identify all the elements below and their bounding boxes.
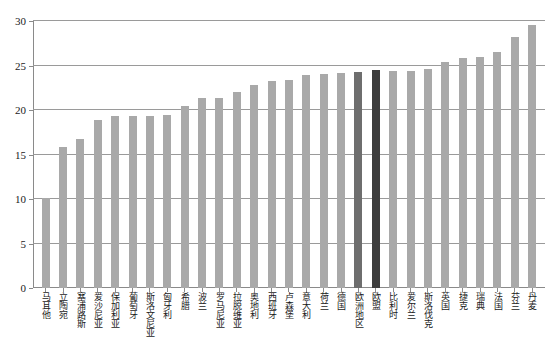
bar-法国[interactable] [493, 52, 501, 288]
x-label-slot: 塞浦路斯 [72, 292, 89, 335]
bar-slot [524, 21, 541, 288]
x-axis-label-西班牙: 西班牙 [267, 292, 276, 319]
x-axis-label-捷克: 捷克 [458, 292, 467, 310]
y-tick-label-30: 30 [15, 16, 26, 27]
x-label-slot: 爱尔兰 [402, 292, 419, 335]
bar-马耳他[interactable] [42, 198, 50, 288]
x-label-slot: 比利时 [385, 292, 402, 335]
x-axis-label-拉脱维亚: 拉脱维亚 [232, 292, 241, 328]
bar-斯洛伐克[interactable] [424, 69, 432, 288]
x-axis-label-丹麦: 丹麦 [528, 292, 537, 310]
x-label-slot: 拉脱维亚 [228, 292, 245, 335]
bar-德国[interactable] [337, 73, 345, 288]
x-label-slot: 欧盟 [367, 292, 384, 335]
x-label-slot: 保加利亚 [107, 292, 124, 335]
x-label-slot: 荷兰 [315, 292, 332, 335]
bars-layer [33, 21, 545, 288]
y-tick-label-0: 0 [21, 283, 27, 294]
bar-卢森堡[interactable] [285, 80, 293, 288]
bar-荷兰[interactable] [320, 74, 328, 288]
x-axis-label-斯洛文尼亚: 斯洛文尼亚 [145, 292, 154, 337]
x-label-slot: 波兰 [193, 292, 210, 335]
bar-slot [402, 21, 419, 288]
bar-捷克[interactable] [459, 58, 467, 289]
bar-拉脱维亚[interactable] [233, 92, 241, 288]
bar-葡萄牙[interactable] [129, 116, 137, 288]
x-axis-label-葡萄牙: 葡萄牙 [128, 292, 137, 319]
bar-西班牙[interactable] [268, 81, 276, 288]
x-label-slot: 法国 [489, 292, 506, 335]
x-axis-label-意大利: 意大利 [302, 292, 311, 319]
x-axis-label-马耳他: 马耳他 [41, 292, 50, 319]
bar-slot [37, 21, 54, 288]
x-label-slot: 芬兰 [506, 292, 523, 335]
x-label-slot: 匈牙利 [159, 292, 176, 335]
bar-奥地利[interactable] [250, 85, 258, 288]
x-label-slot: 立陶宛 [54, 292, 71, 335]
x-label-slot: 马耳他 [37, 292, 54, 335]
bar-丹麦[interactable] [528, 25, 536, 288]
x-axis-label-匈牙利: 匈牙利 [163, 292, 172, 319]
bar-slot [437, 21, 454, 288]
x-axis-label-德国: 德国 [336, 292, 345, 310]
bar-欧洲地区[interactable] [354, 72, 362, 288]
bar-塞浦路斯[interactable] [76, 139, 84, 288]
x-axis-label-奥地利: 奥地利 [250, 292, 259, 319]
bar-罗马尼亚[interactable] [215, 98, 223, 288]
x-axis-label-英国: 英国 [441, 292, 450, 310]
x-axis-label-立陶宛: 立陶宛 [58, 292, 67, 319]
x-axis-label-瑞典: 瑞典 [475, 292, 484, 310]
bar-slot [471, 21, 488, 288]
bar-希腊[interactable] [181, 106, 189, 288]
x-label-slot: 瑞典 [471, 292, 488, 335]
x-label-slot: 西班牙 [263, 292, 280, 335]
bar-slot [246, 21, 263, 288]
bar-slot [454, 21, 471, 288]
x-axis-label-爱沙尼亚: 爱沙尼亚 [93, 292, 102, 328]
bar-slot [280, 21, 297, 288]
bar-slot [315, 21, 332, 288]
bar-波兰[interactable] [198, 98, 206, 288]
bar-slot [141, 21, 158, 288]
bar-立陶宛[interactable] [59, 147, 67, 289]
x-axis-label-比利时: 比利时 [389, 292, 398, 319]
plot-area: 051015202530 [33, 21, 545, 288]
bar-英国[interactable] [441, 62, 449, 288]
x-axis-label-波兰: 波兰 [197, 292, 206, 310]
bar-欧盟[interactable] [372, 70, 380, 288]
x-label-slot: 英国 [437, 292, 454, 335]
x-label-slot: 爱沙尼亚 [89, 292, 106, 335]
bar-瑞典[interactable] [476, 57, 484, 288]
x-label-slot: 斯洛伐克 [419, 292, 436, 335]
x-label-slot: 斯洛文尼亚 [141, 292, 158, 335]
bar-爱沙尼亚[interactable] [94, 120, 102, 288]
bar-slot [385, 21, 402, 288]
bar-slot [419, 21, 436, 288]
bar-slot [176, 21, 193, 288]
bar-意大利[interactable] [302, 75, 310, 288]
x-axis-label-法国: 法国 [493, 292, 502, 310]
x-label-slot: 欧洲地区 [350, 292, 367, 335]
bar-芬兰[interactable] [511, 37, 519, 288]
bar-slot [54, 21, 71, 288]
x-axis-label-斯洛伐克: 斯洛伐克 [423, 292, 432, 328]
x-label-slot: 德国 [332, 292, 349, 335]
x-axis-labels: 马耳他立陶宛塞浦路斯爱沙尼亚保加利亚葡萄牙斯洛文尼亚匈牙利希腊波兰罗马尼亚拉脱维… [33, 292, 545, 335]
x-axis-label-爱尔兰: 爱尔兰 [406, 292, 415, 319]
bar-slot [263, 21, 280, 288]
x-axis-label-卢森堡: 卢森堡 [284, 292, 293, 319]
bar-slot [124, 21, 141, 288]
x-axis-label-塞浦路斯: 塞浦路斯 [76, 292, 85, 328]
x-axis-label-荷兰: 荷兰 [319, 292, 328, 310]
y-tick-label-15: 15 [15, 149, 26, 160]
bar-比利时[interactable] [389, 71, 397, 288]
bar-爱尔兰[interactable] [407, 71, 415, 288]
bar-保加利亚[interactable] [111, 116, 119, 288]
x-axis-label-芬兰: 芬兰 [510, 292, 519, 310]
x-label-slot: 卢森堡 [280, 292, 297, 335]
bar-斯洛文尼亚[interactable] [146, 116, 154, 288]
x-label-slot: 罗马尼亚 [211, 292, 228, 335]
bar-匈牙利[interactable] [163, 115, 171, 288]
bar-slot [228, 21, 245, 288]
